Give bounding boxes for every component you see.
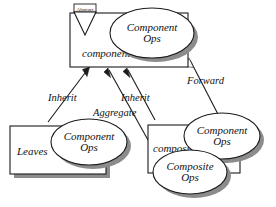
component-group[interactable]: Abstract component Component Ops (70, 4, 198, 70)
leaves-group[interactable]: Leaves Component Ops (10, 119, 131, 178)
edge-label-inherit-left: Inherit (47, 92, 78, 103)
composite-group[interactable]: composite Component Ops Composite Ops (148, 113, 264, 198)
edge-label-forward: Forward (186, 75, 225, 86)
leaves-box-label: Leaves (16, 145, 48, 157)
edge-forward[interactable] (186, 58, 223, 122)
edge-labels-layer: Inherit Aggregate Inherit Forward (47, 75, 225, 118)
component-ops-leaves-label-line2: Ops (80, 141, 98, 153)
composite-ops-label-line2: Ops (181, 171, 199, 183)
edge-label-inherit-right: Inherit (120, 92, 151, 103)
composite-pattern-diagram: Abstract component Component Ops Leaves … (0, 0, 276, 207)
diagram-canvas: Abstract component Component Ops Leaves … (0, 0, 276, 207)
component-ops-composite-label-line2: Ops (213, 135, 231, 147)
component-ops-top-label-line2: Ops (143, 32, 161, 44)
abstract-label: Abstract (77, 7, 95, 12)
edge-label-aggregate: Aggregate (92, 107, 137, 118)
